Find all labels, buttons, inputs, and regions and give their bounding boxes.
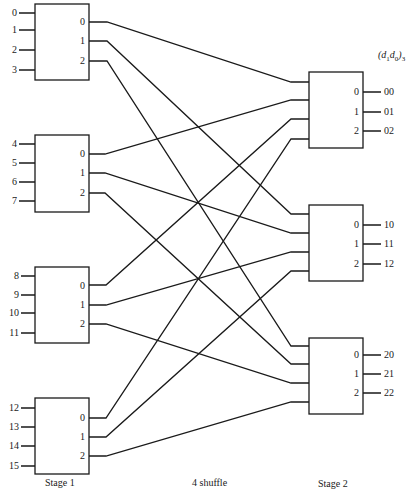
- s1b3-out-0: 0: [80, 413, 85, 423]
- address-format-label: (d1d0)3: [378, 49, 405, 63]
- s1b1-out-0: 0: [80, 149, 85, 159]
- s1b0-out-1: 1: [80, 36, 85, 46]
- input-label-1: 1: [0, 25, 17, 35]
- input-label-11: 11: [0, 328, 19, 338]
- input-label-0: 0: [0, 8, 17, 18]
- s1b0-out-2: 2: [80, 56, 85, 66]
- s2b0-out-2: 2: [354, 126, 359, 136]
- dest-address-10: 10: [384, 220, 394, 230]
- input-label-3: 3: [0, 65, 17, 75]
- input-label-7: 7: [0, 196, 17, 206]
- s2b1-out-2: 2: [354, 259, 359, 269]
- s2b2-out-0: 0: [354, 350, 359, 360]
- s2b1-out-1: 1: [354, 239, 359, 249]
- stage2-label: Stage 2: [318, 478, 348, 489]
- s2b1-out-0: 0: [354, 220, 359, 230]
- input-label-13: 13: [0, 422, 19, 432]
- dest-address-21: 21: [384, 369, 394, 379]
- input-label-8: 8: [0, 271, 19, 281]
- shuffle-label: 4 shuffle: [192, 477, 227, 488]
- stage1-label: Stage 1: [45, 477, 75, 488]
- s2b2-out-2: 2: [354, 388, 359, 398]
- s1b3-out-2: 2: [80, 451, 85, 461]
- input-label-15: 15: [0, 461, 19, 471]
- s2b0-out-1: 1: [354, 107, 359, 117]
- dest-address-22: 22: [384, 388, 394, 398]
- dest-address-00: 00: [384, 87, 394, 97]
- dest-address-12: 12: [384, 259, 394, 269]
- input-label-14: 14: [0, 441, 19, 451]
- s1b2-out-0: 0: [80, 281, 85, 291]
- s2b0-out-0: 0: [354, 87, 359, 97]
- input-label-6: 6: [0, 177, 17, 187]
- s1b3-out-1: 1: [80, 432, 85, 442]
- dest-address-11: 11: [384, 239, 394, 249]
- input-label-2: 2: [0, 45, 17, 55]
- dest-address-02: 02: [384, 126, 394, 136]
- input-label-12: 12: [0, 403, 19, 413]
- s1b2-out-2: 2: [80, 319, 85, 329]
- network-wiring: [0, 0, 412, 497]
- s2b2-out-1: 1: [354, 369, 359, 379]
- input-label-4: 4: [0, 139, 17, 149]
- s1b1-out-2: 2: [80, 188, 85, 198]
- input-label-5: 5: [0, 158, 17, 168]
- input-label-10: 10: [0, 308, 19, 318]
- s1b1-out-1: 1: [80, 168, 85, 178]
- dest-address-01: 01: [384, 107, 394, 117]
- dest-address-20: 20: [384, 350, 394, 360]
- s1b0-out-0: 0: [80, 17, 85, 27]
- input-label-9: 9: [0, 290, 19, 300]
- s1b2-out-1: 1: [80, 300, 85, 310]
